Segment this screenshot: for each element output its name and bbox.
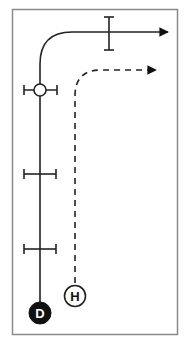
diagram-frame (13, 10, 178, 335)
node-h-label: H (70, 289, 79, 304)
node-d-label: D (35, 306, 44, 321)
node-d: D (29, 302, 51, 324)
node-h: H (65, 286, 86, 307)
diagram-canvas: H D (0, 0, 188, 346)
junction-node (34, 84, 46, 96)
